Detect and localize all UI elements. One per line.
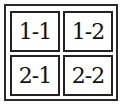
grid-cell-1-1[interactable]: 1-1 — [10, 11, 60, 52]
cell-label: 2-1 — [19, 65, 51, 87]
cell-label: 1-1 — [19, 21, 51, 43]
grid-cell-2-1[interactable]: 2-1 — [10, 55, 60, 96]
cell-label: 1-2 — [72, 21, 104, 43]
cell-label: 2-2 — [72, 65, 104, 87]
grid-cell-1-2[interactable]: 1-2 — [63, 11, 113, 52]
grid-cell-2-2[interactable]: 2-2 — [63, 55, 113, 96]
grid-container: 1-1 1-2 2-1 2-2 — [4, 4, 118, 101]
